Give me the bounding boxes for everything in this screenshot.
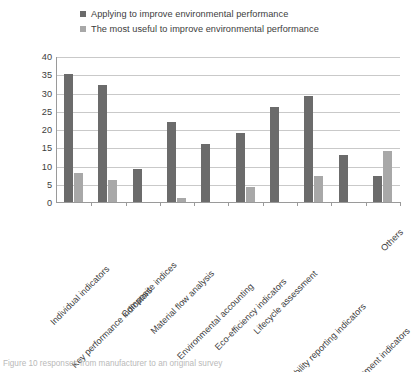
bar-primary bbox=[64, 74, 73, 202]
square-swatch-icon bbox=[80, 26, 86, 32]
bar-group bbox=[91, 57, 125, 202]
plot-area bbox=[56, 57, 400, 203]
legend-item-label: The most useful to improve environmental… bbox=[91, 24, 319, 34]
bar-secondary bbox=[177, 198, 186, 202]
bar-group bbox=[57, 57, 91, 202]
bar-group bbox=[126, 57, 160, 202]
bar-group bbox=[228, 57, 262, 202]
bar-primary bbox=[98, 85, 107, 202]
y-axis-tick-label: 0 bbox=[0, 198, 52, 208]
y-axis-tick-label: 35 bbox=[0, 70, 52, 80]
x-axis-tick-mark bbox=[400, 202, 401, 206]
bar-secondary bbox=[108, 180, 117, 202]
bar-secondary bbox=[383, 151, 392, 202]
bar-group bbox=[366, 57, 400, 202]
bar-primary bbox=[236, 133, 245, 202]
bar-primary bbox=[167, 122, 176, 202]
bar-group bbox=[160, 57, 194, 202]
bar-group bbox=[297, 57, 331, 202]
bar-primary bbox=[373, 176, 382, 202]
y-axis-tick-label: 20 bbox=[0, 125, 52, 135]
chart-legend: Applying to improve environmental perfor… bbox=[0, 0, 415, 36]
y-axis-tick-label: 15 bbox=[0, 143, 52, 153]
bar-primary bbox=[270, 107, 279, 202]
bar-group bbox=[194, 57, 228, 202]
x-axis-category-label-text: Others bbox=[379, 227, 405, 253]
y-axis-tick-label: 30 bbox=[0, 89, 52, 99]
legend-item-0: Applying to improve environmental perfor… bbox=[0, 6, 415, 21]
bar-group bbox=[263, 57, 297, 202]
x-axis-category-label: Others bbox=[398, 208, 415, 234]
y-axis-tick-label: 5 bbox=[0, 180, 52, 190]
y-axis-tick-label: 40 bbox=[0, 52, 52, 62]
square-swatch-icon bbox=[80, 11, 86, 17]
y-axis-tick-labels: 0510152025303540 bbox=[0, 57, 52, 203]
y-axis-tick-label: 10 bbox=[0, 162, 52, 172]
x-axis-category-labels: Individual indicatorsKey performance ind… bbox=[56, 203, 400, 363]
legend-item-1: The most useful to improve environmental… bbox=[0, 21, 415, 36]
x-axis-category-label-text: Individual indicators bbox=[48, 264, 111, 327]
bar-group bbox=[331, 57, 365, 202]
bar-secondary bbox=[246, 187, 255, 202]
bar-groups bbox=[57, 57, 400, 202]
x-axis-category-label: Individual indicators bbox=[104, 208, 167, 271]
y-axis-tick-label: 25 bbox=[0, 107, 52, 117]
bar-primary bbox=[304, 96, 313, 202]
bar-primary bbox=[201, 144, 210, 202]
figure-caption: Figure 10 responses from manufacturer to… bbox=[3, 359, 412, 369]
bar-primary bbox=[339, 155, 348, 202]
legend-item-label: Applying to improve environmental perfor… bbox=[91, 9, 288, 19]
bar-secondary bbox=[74, 173, 83, 202]
bar-secondary bbox=[314, 176, 323, 202]
bar-primary bbox=[133, 169, 142, 202]
